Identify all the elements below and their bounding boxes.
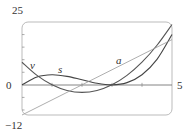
curve-label-a: a [116, 55, 122, 66]
y-min-label: −12 [5, 120, 22, 131]
y-max-label: 25 [12, 5, 23, 16]
axis-ticks [22, 35, 142, 110]
chart-plot [0, 0, 190, 138]
curves [22, 25, 172, 115]
curve-v [22, 25, 172, 93]
x-max-label: 5 [177, 80, 183, 91]
x-origin-label: 0 [6, 80, 12, 91]
curve-label-s: s [58, 64, 62, 75]
curve-label-v: v [30, 60, 35, 71]
curve-a [22, 40, 172, 115]
